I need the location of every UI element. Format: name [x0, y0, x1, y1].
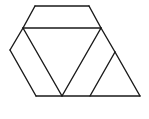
right-triangle-left-edge: [90, 52, 115, 96]
top-left-edge: [23, 6, 35, 28]
geometric-figure: [0, 0, 149, 119]
tiling-diagram: [0, 0, 149, 119]
lower-left-edge: [10, 50, 36, 96]
central-triangle-left-edge: [23, 28, 62, 96]
right-upper-edge: [101, 28, 115, 52]
top-right-edge: [89, 6, 101, 28]
upper-left-edge: [10, 28, 23, 50]
right-lower-edge: [115, 52, 140, 96]
